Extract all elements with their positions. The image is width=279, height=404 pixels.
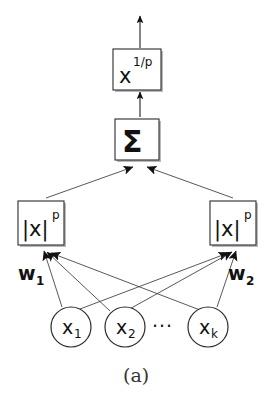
input-k-symbol: x (199, 316, 210, 338)
edges-inputs-to-right-unit (80, 251, 236, 311)
weight-label-2: w 2 (228, 262, 254, 288)
power-unit-left-exponent: p (52, 208, 60, 222)
input-k-subscript: k (211, 327, 218, 341)
weight-2-symbol: w (228, 262, 246, 284)
node-root-power[interactable]: x 1/p (113, 49, 163, 92)
node-summation[interactable]: Σ (115, 119, 161, 162)
edges-inputs-to-left-unit (44, 251, 200, 311)
root-power-exponent: 1/p (133, 55, 152, 69)
input-node-2[interactable]: x 2 (105, 307, 145, 347)
node-power-unit-right[interactable]: |x| p (210, 201, 258, 247)
figure-container: x 1/p Σ |x| p |x| p w 1 w (0, 0, 279, 404)
power-unit-right-exponent: p (244, 208, 252, 222)
input-2-symbol: x (116, 316, 127, 338)
root-power-base: x (119, 64, 131, 88)
node-power-unit-left[interactable]: |x| p (18, 201, 66, 247)
input-2-subscript: 2 (128, 327, 136, 341)
input-node-1[interactable]: x 1 (51, 307, 91, 347)
network-diagram: x 1/p Σ |x| p |x| p w 1 w (0, 0, 279, 404)
input-1-subscript: 1 (74, 327, 82, 341)
summation-symbol: Σ (122, 124, 143, 159)
input-1-symbol: x (62, 316, 73, 338)
input-node-k[interactable]: x k (188, 307, 228, 347)
weight-1-symbol: w (18, 262, 36, 284)
weight-label-1: w 1 (18, 262, 44, 288)
figure-caption: (a) (123, 364, 149, 386)
weight-1-subscript: 1 (36, 274, 44, 288)
weight-2-subscript: 2 (246, 274, 254, 288)
power-unit-right-base: |x| (214, 217, 241, 242)
input-ellipsis: ··· (152, 315, 173, 337)
power-unit-left-base: |x| (22, 217, 49, 242)
edges-units-to-sum (46, 167, 233, 198)
